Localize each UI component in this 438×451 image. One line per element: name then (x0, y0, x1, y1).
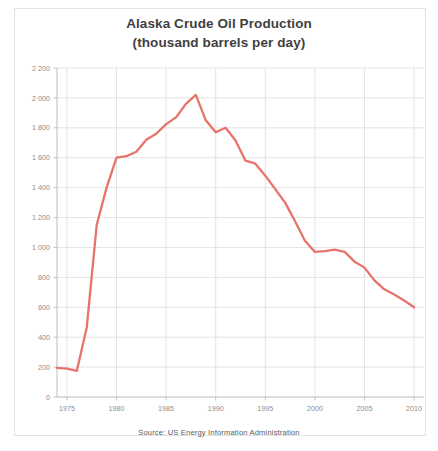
x-axis-tick-label: 1990 (208, 404, 224, 413)
line-chart-svg: 02004006008001 0001 2001 4001 6001 8002 … (0, 0, 438, 451)
y-axis-tick-label: 1 000 (32, 243, 50, 252)
y-axis-tick-label: 600 (38, 303, 50, 312)
y-axis-tick-label: 2 200 (32, 64, 50, 73)
y-axis-tick-label: 1 400 (32, 183, 50, 192)
y-axis-tick-label: 1 800 (32, 123, 50, 132)
x-axis-tick-label: 2005 (356, 404, 372, 413)
chart-figure: Alaska Crude Oil Production (thousand ba… (0, 0, 438, 451)
data-series-line (57, 95, 414, 371)
y-axis-tick-label: 400 (38, 333, 50, 342)
x-axis-tick-label: 1985 (158, 404, 174, 413)
y-axis-tick-label: 200 (38, 363, 50, 372)
y-axis-tick-label: 1 200 (32, 213, 50, 222)
y-axis-tick-label: 2 000 (32, 94, 50, 103)
y-axis-tick-label: 800 (38, 273, 50, 282)
x-axis-tick-label: 2010 (406, 404, 422, 413)
x-axis-tick-label: 1980 (109, 404, 125, 413)
x-axis-tick-label: 1975 (59, 404, 75, 413)
x-axis-tick-label: 2000 (307, 404, 323, 413)
plot-area: 02004006008001 0001 2001 4001 6001 8002 … (0, 0, 438, 451)
x-axis-tick-label: 1995 (257, 404, 273, 413)
y-axis-tick-label: 0 (46, 393, 50, 402)
source-caption: Source: US Energy Information Administra… (0, 428, 438, 437)
y-axis-tick-label: 1 600 (32, 153, 50, 162)
